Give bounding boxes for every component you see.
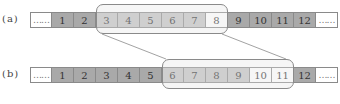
connector-right (222, 34, 286, 59)
connector-left (102, 34, 166, 59)
sliding-connector-lines (0, 0, 340, 104)
